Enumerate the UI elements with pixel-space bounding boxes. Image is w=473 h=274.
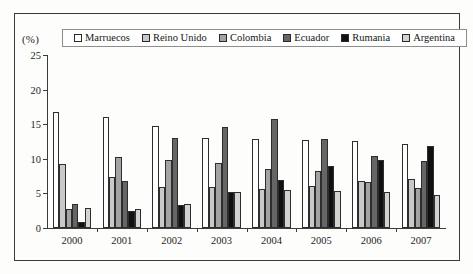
- bar-argentina-2000: [85, 208, 91, 228]
- y-tick-label: 0: [36, 223, 41, 234]
- legend-item-ecuador: Ecuador: [283, 33, 329, 44]
- x-tick-label: 2004: [261, 235, 282, 246]
- plot-area: 0510152025 20002001200220032004200520062…: [47, 55, 446, 229]
- x-tick-label: 2006: [361, 235, 382, 246]
- bar-argentina-2002: [184, 204, 190, 228]
- bar-argentina-2005: [334, 191, 340, 228]
- x-tick: [97, 228, 98, 232]
- chart-figure: (%) MarruecosReino UnidoColombiaEcuadorR…: [0, 0, 473, 274]
- x-tick: [346, 228, 347, 232]
- light-gray-square-icon: [142, 34, 150, 42]
- y-tick: [43, 124, 47, 125]
- chart-legend: MarruecosReino UnidoColombiaEcuadorRuman…: [62, 29, 467, 47]
- legend-label: Argentina: [413, 33, 455, 44]
- x-tick-label: 2007: [411, 235, 432, 246]
- white-square-icon: [74, 34, 82, 42]
- legend-label: Ecuador: [294, 33, 329, 44]
- legend-label: Colombia: [230, 33, 271, 44]
- legend-item-argentina: Argentina: [402, 33, 455, 44]
- y-tick-label: 10: [31, 153, 42, 164]
- bar-argentina-2003: [234, 192, 240, 228]
- legend-label: Reino Unido: [153, 33, 207, 44]
- y-tick: [43, 193, 47, 194]
- x-tick: [396, 228, 397, 232]
- bar-argentina-2001: [135, 209, 141, 228]
- x-tick: [296, 228, 297, 232]
- legend-item-rumania: Rumania: [341, 33, 390, 44]
- legend-item-reino-unido: Reino Unido: [142, 33, 207, 44]
- y-tick-label: 20: [31, 84, 42, 95]
- y-tick: [43, 228, 47, 229]
- x-tick: [247, 228, 248, 232]
- legend-label: Rumania: [352, 33, 390, 44]
- x-tick-label: 2005: [311, 235, 332, 246]
- y-tick: [43, 90, 47, 91]
- x-tick: [147, 228, 148, 232]
- dark-gray-square-icon: [283, 34, 291, 42]
- legend-item-colombia: Colombia: [219, 33, 271, 44]
- x-tick-label: 2001: [111, 235, 132, 246]
- x-tick-label: 2000: [61, 235, 82, 246]
- x-tick-label: 2002: [161, 235, 182, 246]
- y-tick-label: 15: [31, 119, 42, 130]
- legend-label: Marruecos: [85, 33, 130, 44]
- y-tick: [43, 55, 47, 56]
- bar-argentina-2004: [284, 190, 290, 228]
- y-tick-label: 5: [36, 188, 41, 199]
- x-tick-label: 2003: [211, 235, 232, 246]
- pale-gray-square-icon: [402, 34, 410, 42]
- y-axis-unit-label: (%): [22, 33, 39, 45]
- x-tick: [197, 228, 198, 232]
- medium-gray-square-icon: [219, 34, 227, 42]
- legend-item-marruecos: Marruecos: [74, 33, 130, 44]
- y-tick: [43, 159, 47, 160]
- bar-argentina-2006: [384, 192, 390, 228]
- y-tick-label: 25: [31, 50, 42, 61]
- bar-argentina-2007: [434, 195, 440, 228]
- y-axis-line: [47, 55, 48, 229]
- black-square-icon: [341, 34, 349, 42]
